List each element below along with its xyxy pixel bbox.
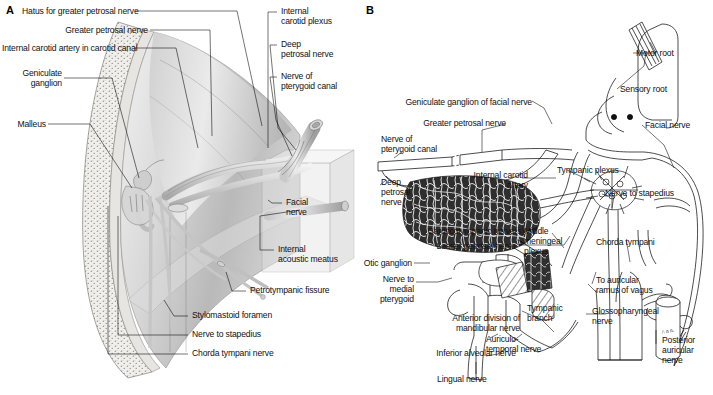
label-middle-meningeal-plexus: Middle meningeal plexus xyxy=(524,226,562,257)
anatomy-figure: A Hatus for greater petrosal nerve Great… xyxy=(0,0,713,395)
label-nerve-to-stapedius-b: Nerve to stapedius xyxy=(605,188,674,198)
panel-b-letter: B xyxy=(366,4,374,16)
label-to-auricular-ramus-vagus: To auricular ramus of vagus xyxy=(596,275,653,295)
label-anterior-division-mandibular: Anterior division of mandibular nerve xyxy=(356,313,520,333)
label-internal-carotid-plexus: Internal carotid plexus xyxy=(281,6,332,26)
label-geniculate-ganglion-facial: Geniculate ganglion of facial nerve xyxy=(400,97,532,107)
label-chorda-tympani-nerve-a: Chorda tympani nerve xyxy=(192,348,274,358)
label-internal-carotid-artery-b: Internal carotid artery xyxy=(456,170,528,190)
panel-b: /\ n n. xyxy=(356,0,713,395)
label-inferior-alveolar-nerve: Inferior alveolar nerve xyxy=(356,348,516,358)
label-lesser-petrosal-nerve: Lesser petrosal nerve xyxy=(378,241,516,251)
label-nerve-to-stapedius-a: Nerve to stapedius xyxy=(192,329,261,339)
label-deep-petrosal-nerve: Deep petrosal nerve xyxy=(281,39,333,59)
label-lingual-nerve: Lingual nerve xyxy=(437,374,487,384)
label-internal-acoustic-meatus: Internal acoustic meatus xyxy=(278,244,338,264)
label-nerve-of-pterygoid-canal-b: Nerve of pterygoid canal xyxy=(381,134,437,154)
label-sensory-root: Sensory root xyxy=(620,84,667,94)
label-glossopharyngeal-nerve: Glossopharyngeal nerve xyxy=(592,306,659,326)
label-posterior-auricular-nerve: Posterior auricular nerve xyxy=(662,335,695,366)
label-internal-carotid-artery-canal: Internal carotid artery in carotid canal xyxy=(2,43,137,53)
label-chorda-tympani-b: Chorda tympani xyxy=(596,237,655,247)
label-petrotympanic-fissure: Petrotympanic fissure xyxy=(250,285,329,295)
label-facial-nerve-a: Facial nerve xyxy=(286,197,308,217)
label-motor-root: Motor root xyxy=(636,48,674,58)
label-tympanic-branch: Tympanic branch xyxy=(527,303,563,323)
label-stylomastoid-foramen: Stylomastoid foramen xyxy=(192,310,272,320)
label-malleus: Malleus xyxy=(2,119,46,129)
label-tympanic-plexus: Tympanic plexus xyxy=(557,165,619,175)
label-deep-petrosal-nerve-b: Deep petrosal nerve xyxy=(381,177,410,208)
label-greater-petrosal-nerve: Greater petrosal nerve xyxy=(54,25,148,35)
label-caroticotympanic-nerves: Caroticotympanic nerve(s) xyxy=(362,226,524,236)
label-hatus-greater-petrosal: Hatus for greater petrosal nerve xyxy=(22,6,139,16)
panel-a: A Hatus for greater petrosal nerve Great… xyxy=(0,0,356,395)
label-geniculate-ganglion: Geniculate ganglion xyxy=(2,68,62,88)
label-nerve-of-pterygoid-canal: Nerve of pterygoid canal xyxy=(281,71,337,91)
label-nerve-to-medial-pterygoid: Nerve to medial pterygoid xyxy=(358,274,414,305)
panel-a-letter: A xyxy=(6,4,14,16)
label-facial-nerve-b: Facial nerve xyxy=(645,120,690,130)
label-otic-ganglion: Otic ganglion xyxy=(358,258,412,268)
label-greater-petrosal-nerve-b: Greater petrosal nerve xyxy=(414,118,506,128)
